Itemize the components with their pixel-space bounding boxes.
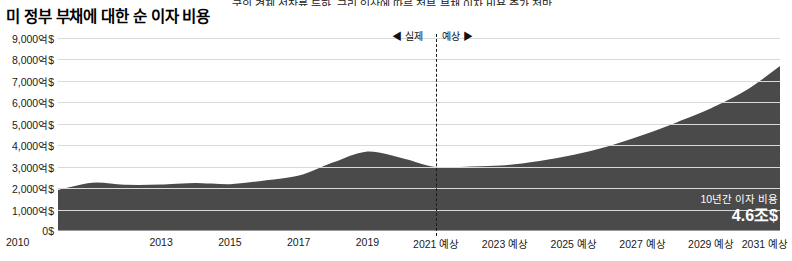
projected-marker-label: 예상 ▶ — [442, 28, 473, 43]
projection-divider — [436, 34, 437, 236]
x-axis-tick-label: 2029 예상 — [688, 236, 734, 251]
x-axis-tick-label: 2021 예상 — [413, 236, 459, 251]
y-axis-tick-label: 5,000억$ — [12, 116, 54, 131]
gridline — [58, 102, 780, 103]
y-axis-tick-label: 9,000억$ — [12, 31, 54, 46]
callout-label: 10년간 이자 비용 — [700, 193, 778, 206]
callout-value: 4.6조$ — [700, 207, 778, 225]
x-axis-tick-label: 2019 — [356, 236, 379, 248]
x-axis-tick-label: 2025 예상 — [551, 236, 597, 251]
total-cost-callout: 10년간 이자 비용 4.6조$ — [700, 193, 778, 225]
gridline — [58, 167, 780, 168]
x-axis-tick-label: 2010 — [6, 236, 29, 248]
y-axis-tick-label: 4,000억$ — [12, 138, 54, 153]
gridline — [58, 210, 780, 211]
y-axis-tick-label: 8,000억$ — [12, 52, 54, 67]
plot-area — [58, 38, 780, 231]
x-axis-line — [58, 230, 780, 231]
y-axis-tick-label: 7,000억$ — [12, 73, 54, 88]
x-axis-tick-label: 2015 — [218, 236, 241, 248]
gridline — [58, 124, 780, 125]
chart-container: 국의 경제 성장률 둔화, 금리 인상에 따른 정부 부채 이자 비용 증가 전… — [0, 0, 792, 261]
x-axis-tick-label: 2013 — [149, 236, 172, 248]
y-axis-tick-label: 3,000억$ — [12, 159, 54, 174]
gridline — [58, 145, 780, 146]
y-axis-tick-label: 1,000억$ — [12, 202, 54, 217]
chart-title: 미 정부 부채에 대한 순 이자 비용 — [6, 4, 210, 26]
x-axis-tick-label: 2023 예상 — [482, 236, 528, 251]
x-axis-tick-label: 2027 예상 — [619, 236, 665, 251]
gridline — [58, 81, 780, 82]
y-axis-tick-label: 2,000억$ — [12, 181, 54, 196]
actual-marker-label: ◀ 실제 — [392, 28, 423, 43]
y-axis-tick-label: 6,000억$ — [12, 95, 54, 110]
area-fill — [58, 65, 780, 231]
area-series — [58, 38, 780, 231]
x-axis-labels: 201020132015201720192021 예상2023 예상2025 예… — [0, 236, 792, 254]
gridline — [58, 59, 780, 60]
gridline — [58, 188, 780, 189]
y-axis-labels: 0$1,000억$2,000억$3,000억$4,000억$5,000억$6,0… — [0, 38, 54, 231]
x-axis-tick-label: 2017 — [287, 236, 310, 248]
x-axis-tick-label: 2031 예상 — [742, 236, 788, 251]
top-caption: 국의 경제 성장률 둔화, 금리 인상에 따른 정부 부채 이자 비용 증가 전… — [232, 0, 792, 6]
